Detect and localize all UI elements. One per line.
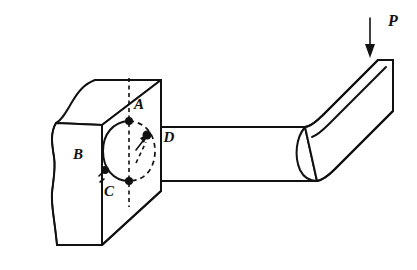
label-load-p: P	[387, 12, 398, 29]
beam-horizontal-segment	[161, 127, 317, 181]
node-interior-dot	[143, 131, 152, 140]
node-c-dot	[125, 177, 133, 185]
support-wall-block	[52, 80, 161, 245]
mechanics-diagram-svg: A B C D P	[0, 0, 417, 270]
label-point-d: D	[163, 129, 175, 145]
load-arrow-head	[365, 44, 375, 58]
load-arrow-p	[365, 18, 375, 58]
node-a-dot	[125, 117, 133, 125]
beam-horizontal-body	[161, 127, 317, 181]
figure-root: A B C D P	[0, 0, 417, 270]
wall-front-face	[52, 123, 102, 245]
label-point-a: A	[133, 96, 144, 112]
label-point-b: B	[72, 146, 83, 162]
label-point-c: C	[104, 183, 115, 199]
